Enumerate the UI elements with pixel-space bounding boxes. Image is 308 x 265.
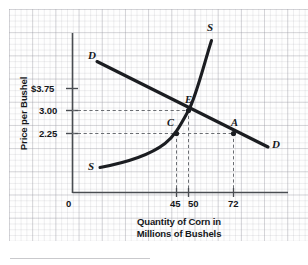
demand-curve-label-top: D [88,49,96,61]
x-axis-title: Quantity of Corn in Millions of Bushels [104,216,254,239]
demand-curve [97,62,268,148]
point-marker-e [186,108,191,113]
footer-rule [10,258,150,259]
point-label-e: E [185,94,192,105]
supply-demand-chart-figure: $3.75 3.00 2.25 0 45 50 72 D D S S E C A… [0,0,308,265]
point-marker-a [231,131,236,136]
supply-curve [100,41,212,168]
x-axis-title-line-2: Millions of Bushels [104,228,254,240]
y-tick-label-300: 3.00 [39,105,57,116]
supply-curve-label-bottom: S [88,160,94,172]
y-tick-label-225: 2.25 [39,128,57,139]
x-axis-title-line-1: Quantity of Corn in [104,216,254,228]
point-marker-c [174,131,179,136]
demand-curve-label-bottom: D [272,138,280,150]
point-label-c: C [167,117,174,128]
y-axis-title: Price per Bushel [18,65,29,163]
y-tick-label-375: $3.75 [31,83,54,94]
point-label-a: A [231,117,238,128]
x-tick-label-0: 0 [66,198,71,209]
x-tick-label-72: 72 [228,198,238,209]
x-tick-label-45: 45 [170,198,180,209]
x-tick-label-50: 50 [188,198,198,209]
supply-curve-label-top: S [207,21,213,33]
